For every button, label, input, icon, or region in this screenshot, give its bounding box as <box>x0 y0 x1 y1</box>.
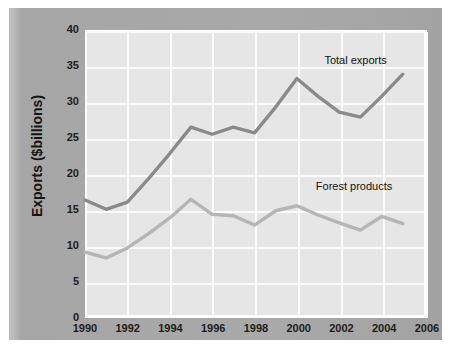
y-tick-label: 40 <box>53 24 79 35</box>
chart-figure: Exports ($billions) 4035302520151050 199… <box>0 0 451 348</box>
x-tick-label: 1992 <box>106 321 150 335</box>
y-tick-label: 25 <box>53 132 79 143</box>
y-axis-tick-labels: 4035302520151050 <box>51 30 79 318</box>
x-tick-label: 1990 <box>63 321 107 335</box>
x-tick-label: 1996 <box>191 321 235 335</box>
y-axis-title: Exports ($billions) <box>29 46 45 266</box>
x-tick-label: 1994 <box>149 321 193 335</box>
x-tick-label: 2004 <box>362 321 406 335</box>
x-tick-label: 2002 <box>320 321 364 335</box>
y-tick-label: 5 <box>53 276 79 287</box>
x-tick-label: 2000 <box>277 321 321 335</box>
x-axis-tick-labels: 199019921994199619982000200220042006 <box>85 321 427 341</box>
y-tick-label: 35 <box>53 60 79 71</box>
x-tick-label: 1998 <box>234 321 278 335</box>
annotation-forest-products: Forest products <box>316 180 392 192</box>
y-tick-label: 30 <box>53 96 79 107</box>
series-layer <box>85 32 424 318</box>
x-tick-label: 2006 <box>405 321 449 335</box>
chart-panel: Exports ($billions) 4035302520151050 199… <box>9 8 442 340</box>
y-tick-label: 10 <box>53 240 79 251</box>
plot-area: Total exports Forest products <box>85 30 427 318</box>
y-tick-label: 15 <box>53 204 79 215</box>
line-forest-products <box>85 199 403 258</box>
annotation-total-exports: Total exports <box>324 54 386 66</box>
gridline-vertical <box>426 32 428 318</box>
y-tick-label: 20 <box>53 168 79 179</box>
